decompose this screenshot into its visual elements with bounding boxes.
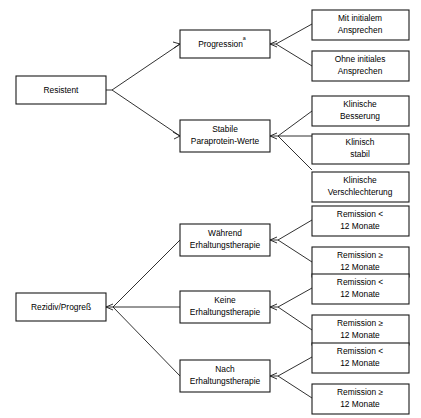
connector-group-resistent — [106, 42, 180, 139]
node-remission-lt-c-line1: Remission < — [337, 346, 383, 356]
node-ohne-initiales-line2: Ansprechen — [338, 66, 383, 76]
node-stabile-label-line1: Stabile — [212, 124, 238, 134]
node-keine-erhaltungstherapie[interactable]: Keine Erhaltungstherapie — [180, 291, 270, 323]
connector-waehrend-to-remission-ge-a — [278, 240, 312, 262]
connector-group-waehrend — [270, 220, 312, 262]
connector-nach-to-remission-ge-c — [278, 376, 312, 398]
connector-resistent-to-stabile — [112, 90, 180, 136]
node-waehrend-line1: Während — [208, 228, 242, 238]
connector-group-stabile — [270, 111, 312, 170]
node-rezidiv-progress[interactable]: Rezidiv/Progreß — [16, 293, 106, 321]
connector-group-nach — [270, 357, 312, 398]
connector-group-rezidiv — [106, 240, 180, 376]
connector-rezidiv-to-waehrend — [106, 240, 180, 307]
node-remission-ge-b-line1: Remission ≥ — [337, 318, 383, 328]
node-remission-lt-12-c[interactable]: Remission < 12 Monate — [312, 343, 409, 373]
connector-keine-to-remission-ge-b — [278, 307, 312, 330]
node-remission-ge-12-c[interactable]: Remission ≥ 12 Monate — [312, 384, 409, 414]
node-remission-lt-c-line2: 12 Monate — [340, 358, 380, 368]
node-remission-ge-12-a[interactable]: Remission ≥ 12 Monate — [312, 247, 409, 277]
arrow-progression-in — [173, 42, 180, 48]
node-resistent-label: Resistent — [44, 85, 80, 95]
node-remission-lt-12-a[interactable]: Remission < 12 Monate — [312, 206, 409, 236]
node-klinisch-stabil[interactable]: Klinisch stabil — [312, 134, 409, 164]
connector-progression-to-ohne-initiales — [276, 44, 312, 66]
node-remission-ge-12-b[interactable]: Remission ≥ 12 Monate — [312, 315, 409, 345]
node-ohne-initiales-line1: Ohne initiales — [335, 54, 386, 64]
node-remission-ge-c-line2: 12 Monate — [340, 399, 380, 409]
node-keine-line1: Keine — [214, 295, 236, 305]
node-remission-lt-a-line2: 12 Monate — [340, 221, 380, 231]
node-mit-initialem-line1: Mit initialem — [338, 13, 382, 23]
node-ohne-initiales-ansprechen[interactable]: Ohne initiales Ansprechen — [312, 51, 409, 81]
node-stabile-paraprotein-werte[interactable]: Stabile Paraprotein-Werte — [180, 120, 270, 152]
node-waehrend-erhaltungstherapie[interactable]: Während Erhaltungstherapie — [180, 224, 270, 256]
node-stabile-label-line2: Paraprotein-Werte — [191, 136, 260, 146]
node-progression[interactable]: Progressiona — [180, 30, 270, 58]
node-remission-lt-b-line1: Remission < — [337, 277, 383, 287]
arrow-stabile-in — [173, 132, 180, 139]
node-klinische-besserung[interactable]: Klinische Besserung — [312, 96, 409, 126]
connector-rezidiv-to-nach — [113, 307, 180, 376]
node-klinische-verschlechterung-line2: Verschlechterung — [328, 187, 393, 197]
connector-group-keine — [270, 288, 312, 330]
connector-resistent-to-progression — [106, 44, 180, 90]
node-mit-initialem-line2: Ansprechen — [338, 25, 383, 35]
node-remission-lt-a-line1: Remission < — [337, 209, 383, 219]
connector-group-progression — [270, 24, 312, 66]
node-klinische-verschlechterung-line1: Klinische — [343, 175, 377, 185]
node-nach-line2: Erhaltungstherapie — [190, 376, 261, 386]
connector-stabile-to-klinische-besserung — [270, 111, 312, 136]
node-keine-line2: Erhaltungstherapie — [190, 307, 261, 317]
node-remission-ge-c-line1: Remission ≥ — [337, 387, 383, 397]
node-remission-lt-12-b[interactable]: Remission < 12 Monate — [312, 274, 409, 304]
node-klinisch-stabil-line1: Klinisch — [346, 137, 375, 147]
node-remission-lt-b-line2: 12 Monate — [340, 289, 380, 299]
node-nach-line1: Nach — [215, 364, 235, 374]
node-remission-ge-a-line2: 12 Monate — [340, 262, 380, 272]
node-klinische-besserung-line2: Besserung — [340, 111, 380, 121]
node-remission-ge-a-line1: Remission ≥ — [337, 250, 383, 260]
flowchart-diagram: Resistent Progressiona Stabile Paraprote… — [0, 0, 421, 418]
node-klinische-verschlechterung[interactable]: Klinische Verschlechterung — [312, 172, 409, 202]
node-rezidiv-label: Rezidiv/Progreß — [31, 302, 91, 312]
node-klinische-besserung-line1: Klinische — [343, 99, 377, 109]
node-klinisch-stabil-line2: stabil — [350, 149, 370, 159]
node-waehrend-line2: Erhaltungstherapie — [190, 240, 261, 250]
connector-stabile-to-klinische-verschlechterung — [278, 136, 312, 170]
node-mit-initialem-ansprechen[interactable]: Mit initialem Ansprechen — [312, 10, 409, 40]
node-nach-erhaltungstherapie[interactable]: Nach Erhaltungstherapie — [180, 360, 270, 392]
node-resistent[interactable]: Resistent — [16, 76, 106, 104]
node-remission-ge-b-line2: 12 Monate — [340, 330, 380, 340]
